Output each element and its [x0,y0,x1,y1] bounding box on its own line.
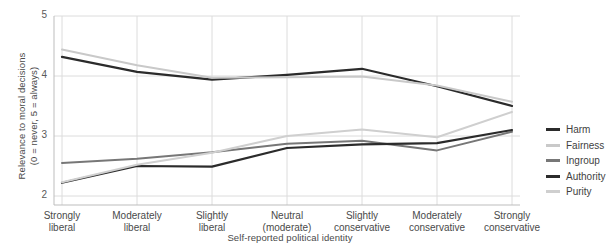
legend-item-harm[interactable]: Harm [546,122,605,138]
legend-item-fairness[interactable]: Fairness [546,138,605,154]
legend-item-purity[interactable]: Purity [546,184,605,200]
legend-label: Authority [566,171,605,182]
x-tick-label-line: conservative [467,222,557,234]
legend-swatch-icon [546,159,560,162]
legend-swatch-icon [546,144,560,147]
y-tick-label: 2 [27,189,47,200]
legend-label: Ingroup [566,155,600,166]
chart-legend: HarmFairnessIngroupAuthorityPurity [546,122,605,200]
legend-swatch-icon [546,175,560,178]
x-tick-label: Stronglyconservative [467,210,557,233]
y-axis-title: Relevance to moral decisions (0 = never,… [16,36,40,196]
legend-swatch-icon [546,190,560,193]
legend-label: Harm [566,124,590,135]
y-axis-title-line1: Relevance to moral decisions [16,36,28,196]
y-axis-title-line2: (0 = never, 5 = always) [28,36,40,196]
x-axis-title: Self-reported political identity [140,232,440,244]
y-tick-label: 3 [27,129,47,140]
legend-item-authority[interactable]: Authority [546,169,605,185]
y-tick-label: 5 [27,9,47,20]
legend-swatch-icon [546,128,560,131]
chart-figure: Relevance to moral decisions (0 = never,… [0,0,615,249]
legend-item-ingroup[interactable]: Ingroup [546,153,605,169]
legend-label: Fairness [566,140,604,151]
legend-label: Purity [566,186,592,197]
x-tick-label-line: Strongly [467,210,557,222]
y-tick-label: 4 [27,69,47,80]
grid-lines [54,16,520,205]
